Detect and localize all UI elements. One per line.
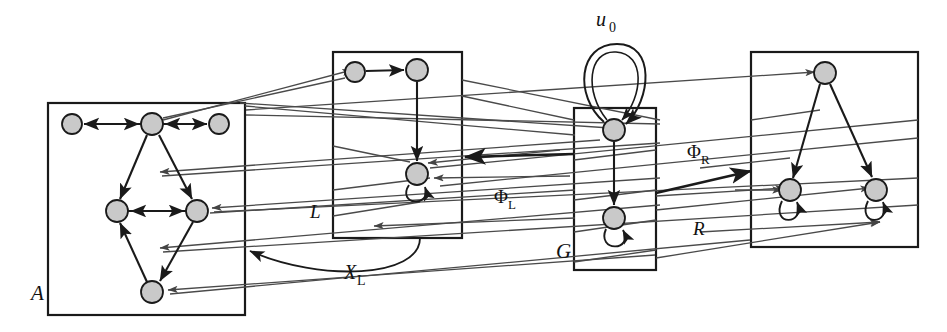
label-xl-sub: L (357, 273, 366, 288)
node-r1 (779, 179, 801, 201)
node-x0 (345, 62, 365, 82)
label-phi-r-sub: R (701, 152, 710, 167)
node-r0 (814, 62, 836, 84)
label-u0: u 0 (596, 8, 616, 35)
label-xl: X L (343, 261, 366, 288)
label-morphism-r: R (692, 218, 705, 239)
label-morphism-l: L (309, 201, 321, 222)
node-a4 (186, 200, 208, 222)
node-r2 (865, 179, 887, 201)
graph-nodes (62, 59, 887, 303)
node-g1 (603, 207, 625, 229)
node-a1 (141, 113, 163, 135)
label-phi-l: Φ L (494, 186, 516, 212)
node-a2 (209, 114, 229, 134)
label-phi-l-base: Φ (494, 186, 508, 207)
diagram-canvas: A G u 0 Φ L Φ R L R X L (0, 0, 947, 332)
node-a5 (141, 281, 163, 303)
label-u0-sub: 0 (609, 20, 616, 35)
node-x1 (406, 59, 428, 81)
diagram-svg: A G u 0 Φ L Φ R L R X L (0, 0, 947, 332)
label-phi-r: Φ R (687, 141, 710, 167)
label-box-g: G (556, 239, 571, 263)
label-u0-base: u (596, 8, 606, 30)
xl-arc (250, 238, 420, 272)
node-x2 (406, 163, 428, 185)
label-phi-l-sub: L (508, 197, 516, 212)
node-g0 (603, 119, 625, 141)
label-box-a: A (29, 281, 44, 305)
node-a0 (62, 114, 82, 134)
label-phi-r-base: Φ (687, 141, 701, 162)
box-r (751, 52, 918, 247)
node-a3 (106, 200, 128, 222)
label-xl-base: X (343, 261, 357, 283)
